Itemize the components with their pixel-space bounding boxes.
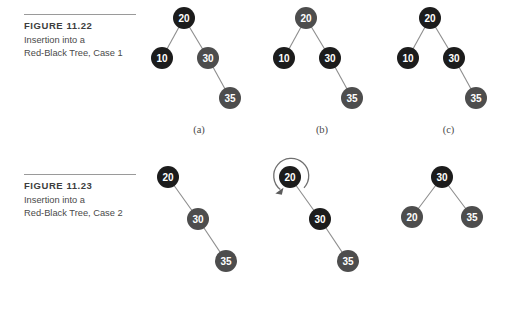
node-label: 20: [162, 172, 174, 183]
tree-node: 20: [173, 7, 195, 29]
node-label: 20: [300, 13, 312, 24]
tree-node: 35: [215, 250, 237, 272]
tree-node: 35: [465, 87, 487, 109]
node-label: 10: [402, 53, 414, 64]
node-label: 20: [284, 172, 296, 183]
node-label: 30: [448, 53, 460, 64]
node-label: 35: [342, 256, 354, 267]
node-label: 30: [436, 172, 448, 183]
node-label: 35: [224, 93, 236, 104]
tree-node: 30: [319, 47, 341, 69]
node-label: 30: [314, 214, 326, 225]
node-label: 10: [278, 53, 290, 64]
panel-sublabel: (b): [262, 124, 382, 135]
tree-panel-c: 302035 (c): [386, 157, 511, 313]
caption-rule: [24, 174, 136, 175]
tree-node: 10: [397, 47, 419, 69]
tree-node: 20: [401, 206, 423, 228]
node-label: 10: [156, 53, 168, 64]
tree-diagram: 203035: [140, 157, 258, 279]
tree-node: 30: [197, 47, 219, 69]
panel-sublabel: (c): [386, 124, 511, 135]
caption-line-2: Red-Black Tree, Case 2: [24, 207, 136, 220]
node-label: 30: [324, 53, 336, 64]
tree-node: 30: [309, 208, 331, 230]
tree-diagram: 203035: [262, 157, 382, 279]
caption-line-1: Insertion into a: [24, 34, 136, 47]
tree-panel-b: 203035 (b): [262, 157, 382, 313]
tree-node: 30: [431, 166, 453, 188]
node-label: 20: [406, 212, 418, 223]
node-label: 30: [192, 214, 204, 225]
tree-diagram: 20103035: [386, 0, 511, 122]
tree-node: 35: [341, 87, 363, 109]
figure-number: FIGURE 11.22: [24, 20, 136, 31]
tree-panel-a: 20103035 (a): [140, 0, 258, 157]
figure-11-23: FIGURE 11.23 Insertion into a Red-Black …: [0, 157, 517, 313]
node-label: 20: [424, 13, 436, 24]
tree-node: 35: [461, 206, 483, 228]
figure-number: FIGURE 11.23: [24, 180, 136, 191]
figure-caption: FIGURE 11.23 Insertion into a Red-Black …: [24, 174, 136, 220]
tree-node: 20: [157, 166, 179, 188]
figure-caption: FIGURE 11.22 Insertion into a Red-Black …: [24, 14, 136, 60]
tree-node: 35: [219, 87, 241, 109]
tree-node: 10: [151, 47, 173, 69]
caption-line-2: Red-Black Tree, Case 1: [24, 47, 136, 60]
tree-node: 30: [187, 208, 209, 230]
node-label: 20: [178, 13, 190, 24]
node-label: 35: [466, 212, 478, 223]
tree-panel-c: 20103035 (c): [386, 0, 511, 157]
figure-11-22: FIGURE 11.22 Insertion into a Red-Black …: [0, 0, 517, 157]
tree-diagram: 302035: [386, 157, 511, 279]
tree-node: 20: [279, 166, 301, 188]
tree-panel-a: 203035 (a): [140, 157, 258, 313]
caption-line-1: Insertion into a: [24, 194, 136, 207]
tree-node: 20: [295, 7, 317, 29]
tree-diagram: 20103035: [262, 0, 382, 122]
tree-diagram: 20103035: [140, 0, 258, 122]
node-label: 35: [470, 93, 482, 104]
caption-rule: [24, 14, 136, 15]
node-label: 35: [220, 256, 232, 267]
node-label: 35: [346, 93, 358, 104]
panel-sublabel: (a): [140, 124, 258, 135]
tree-node: 20: [419, 7, 441, 29]
tree-node: 35: [337, 250, 359, 272]
tree-node: 30: [443, 47, 465, 69]
tree-panel-b: 20103035 (b): [262, 0, 382, 157]
tree-node: 10: [273, 47, 295, 69]
node-label: 30: [202, 53, 214, 64]
